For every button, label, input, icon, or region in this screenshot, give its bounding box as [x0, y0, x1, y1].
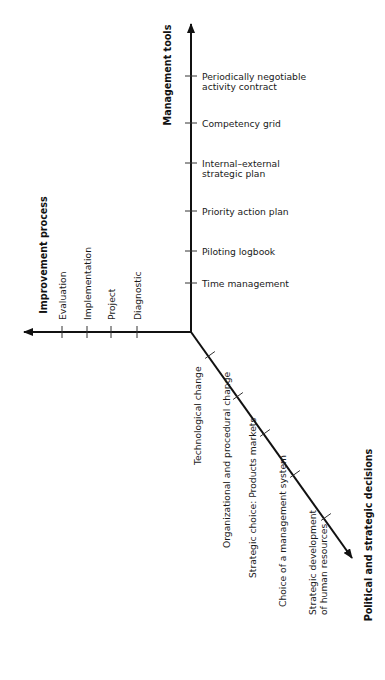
management-tool-label-line: Internal–external [202, 158, 280, 169]
strategic-decision-label-line: Organizational and procedural change [221, 372, 232, 548]
management-tool-label-line: activity contract [202, 81, 277, 92]
improvement-step-label: Implementation [82, 247, 93, 320]
strategic-decision-label-line: Strategic development [307, 510, 318, 615]
strategic-decision-label-line: of human resources [318, 524, 329, 615]
strategic-decision-label: Choice of a management system [277, 455, 288, 607]
management-tool-label: Time management [201, 278, 289, 289]
strategic-decision-label: Strategic choice: Products markets [247, 418, 258, 578]
improvement-process-title-line: Improvement process [38, 196, 49, 314]
improvement-step-label-line: Implementation [82, 247, 93, 320]
management-tool-label: Piloting logbook [202, 246, 276, 257]
management-tool-label-line: Time management [201, 278, 289, 289]
three-axis-diagram: Time managementPiloting logbookPriority … [0, 0, 385, 680]
strategic-decision-label-line: Strategic choice: Products markets [247, 418, 258, 578]
management-tool-label-line: Priority action plan [202, 206, 289, 217]
management-tool-label: Periodically negotiableactivity contract [202, 71, 306, 93]
management-tool-label-line: strategic plan [202, 168, 265, 179]
management-tool-label-line: Competency grid [202, 118, 281, 129]
political-strategic-title-line: Political and strategic decisions [363, 448, 374, 621]
improvement-step-label: Evaluation [57, 271, 68, 320]
management-tool-label: Internal–externalstrategic plan [202, 158, 280, 180]
strategic-decision-label: Technological change [192, 366, 203, 466]
improvement-step-label-line: Diagnostic [132, 271, 143, 320]
management-tools-title: Management tools [162, 24, 173, 125]
management-tool-label-line: Piloting logbook [202, 246, 276, 257]
management-tool-label: Competency grid [202, 118, 281, 129]
strategic-decision-label-line: Choice of a management system [277, 455, 288, 607]
improvement-step-label: Diagnostic [132, 271, 143, 320]
management-tool-label-line: Periodically negotiable [202, 71, 306, 82]
improvement-step-label: Project [106, 288, 117, 320]
strategic-decision-label: Strategic developmentof human resources [307, 510, 329, 615]
management-tools-title-line: Management tools [162, 24, 173, 125]
improvement-step-label-line: Evaluation [57, 271, 68, 320]
political-strategic-title: Political and strategic decisions [363, 448, 374, 621]
improvement-process-title: Improvement process [38, 196, 49, 314]
strategic-decision-label: Organizational and procedural change [221, 372, 232, 548]
management-tool-label: Priority action plan [202, 206, 289, 217]
improvement-step-label-line: Project [106, 288, 117, 320]
strategic-decision-label-line: Technological change [192, 366, 203, 466]
